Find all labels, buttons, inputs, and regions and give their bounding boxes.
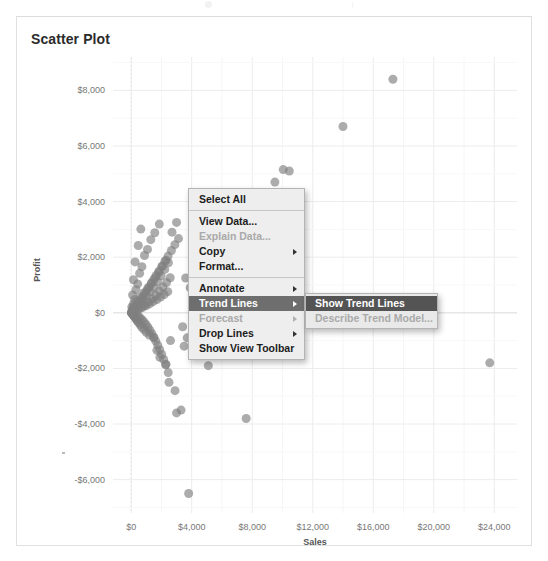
x-axis-tick-label: $20,000: [417, 522, 450, 532]
plot-canvas[interactable]: [113, 57, 517, 513]
submenu-arrow-icon: [293, 249, 297, 255]
y-axis-tick-label: $4,000: [47, 197, 105, 207]
submenu-arrow-icon: [293, 286, 297, 292]
menu-item-format[interactable]: Format...: [189, 259, 304, 274]
menu-item-label: Show View Toolbar: [199, 342, 294, 354]
submenu-arrow-icon: [293, 331, 297, 337]
y-axis-tick-label: $6,000: [47, 141, 105, 151]
menu-item-view-data[interactable]: View Data...: [189, 214, 304, 229]
x-axis-tick-label: $8,000: [238, 522, 266, 532]
menu-item-explain-data: Explain Data...: [189, 229, 304, 244]
stray-mark: [62, 452, 65, 454]
clipped-dot: [205, 1, 212, 8]
menu-item-annotate[interactable]: Annotate: [189, 281, 304, 296]
submenu-arrow-icon: [293, 301, 297, 307]
y-axis-tick-label: $0: [47, 308, 105, 318]
x-axis-tick-label: $12,000: [296, 522, 329, 532]
menu-item-trend-lines[interactable]: Trend Lines: [189, 296, 304, 311]
context-menu[interactable]: Select AllView Data...Explain Data...Cop…: [188, 188, 305, 360]
menu-separator: [189, 210, 304, 211]
menu-item-label: Trend Lines: [199, 297, 258, 309]
x-axis-tick-label: $16,000: [357, 522, 390, 532]
submenu-arrow-icon: [293, 316, 297, 322]
menu-item-forecast: Forecast: [189, 311, 304, 326]
menu-item-label: Drop Lines: [199, 327, 254, 339]
submenu-item-describe-trend-model: Describe Trend Model...: [306, 311, 437, 326]
menu-item-show-view-toolbar[interactable]: Show View Toolbar: [189, 341, 304, 356]
scatter-plot-svg: [113, 57, 517, 513]
menu-item-label: Explain Data...: [199, 230, 271, 242]
menu-item-copy[interactable]: Copy: [189, 244, 304, 259]
y-axis-tick-label: $8,000: [47, 85, 105, 95]
y-axis-title: Profit: [32, 258, 42, 282]
trend-lines-submenu[interactable]: Show Trend LinesDescribe Trend Model...: [305, 293, 438, 329]
clipped-top-strip: [0, 0, 548, 12]
menu-item-label: Annotate: [199, 282, 245, 294]
x-axis-tick-label: $0: [126, 522, 136, 532]
submenu-item-show-trend-lines[interactable]: Show Trend Lines: [306, 296, 437, 311]
x-axis-tick-label: $4,000: [178, 522, 206, 532]
menu-item-label: View Data...: [199, 215, 257, 227]
y-axis-tick-label: -$4,000: [47, 419, 105, 429]
menu-item-label: Select All: [199, 193, 246, 205]
menu-separator: [189, 277, 304, 278]
x-axis-tick-label: $24,000: [478, 522, 511, 532]
menu-item-label: Forecast: [199, 312, 243, 324]
menu-item-select-all[interactable]: Select All: [189, 192, 304, 207]
menu-item-label: Copy: [199, 245, 225, 257]
menu-item-label: Format...: [199, 260, 243, 272]
screenshot-root: Scatter Plot $8,000$6,000$4,000$2,000$0-…: [0, 0, 548, 561]
y-axis-tick-label: -$6,000: [47, 475, 105, 485]
y-axis-tick-label: -$2,000: [47, 363, 105, 373]
x-axis-title: Sales: [303, 537, 327, 547]
menu-item-drop-lines[interactable]: Drop Lines: [189, 326, 304, 341]
clipped-tick: [352, 2, 353, 8]
y-axis-tick-label: $2,000: [47, 252, 105, 262]
